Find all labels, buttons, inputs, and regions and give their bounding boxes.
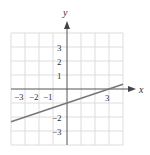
x-tick-label: −1 [43, 92, 53, 102]
y-tick-label: 2 [57, 57, 62, 67]
coordinate-plane: x y −3 −2 −1 3 3 2 1 −2 −3 [0, 0, 150, 155]
y-tick-label: −2 [52, 113, 62, 123]
y-tick-label: −3 [52, 127, 62, 137]
x-tick-label: 3 [105, 93, 110, 103]
axes [11, 28, 131, 145]
x-tick-label: −3 [14, 92, 24, 102]
x-axis-label: x [138, 84, 144, 95]
y-tick-label: 1 [57, 71, 62, 81]
y-axis-label: y [62, 7, 68, 18]
y-tick-label: 3 [57, 43, 62, 53]
x-axis-arrow-icon [128, 86, 136, 92]
y-axis-arrow-icon [64, 21, 70, 29]
x-tick-label: −2 [29, 92, 39, 102]
